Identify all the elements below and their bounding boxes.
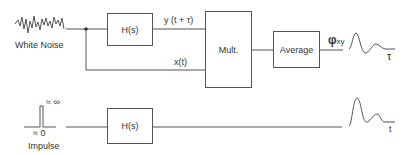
impulse-shape [24,106,56,127]
filter-box-bottom: H(s) [107,108,153,144]
t-axis-label: t [389,124,392,134]
impulse-width-label: ≈ 0 [33,128,45,138]
impulse-response-waveform [349,98,395,126]
white-noise-label: White Noise [15,40,64,50]
filter-box-top: H(s) [107,13,153,46]
impulse-height-label: ≈ ∞ [46,97,60,107]
multiplier-box: Mult. [205,11,252,88]
phi-xy-label: φxy [328,33,345,47]
input-signal-label: x(t) [174,57,187,67]
filter-label-top: H(s) [122,25,139,35]
filter-label-bottom: H(s) [122,121,139,131]
junction-dot [84,27,88,31]
impulse-label: Impulse [28,141,60,151]
average-label: Average [280,45,313,55]
phi-subscript: xy [337,37,345,46]
output-signal-label: y (t + τ) [164,15,193,25]
white-noise-waveform [15,16,64,33]
phi-symbol: φ [328,33,337,47]
multiplier-label: Mult. [219,45,239,55]
tau-axis-label: τ [387,50,391,62]
average-box: Average [273,31,320,68]
